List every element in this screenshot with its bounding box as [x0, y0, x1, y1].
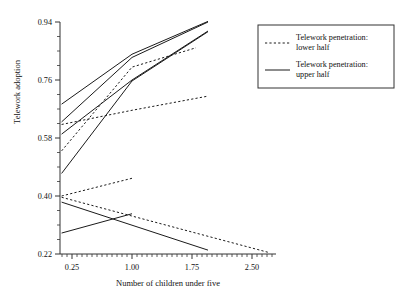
series-line-lower-dashed-3	[62, 178, 132, 196]
y-tick-label: 0.22	[38, 250, 52, 259]
y-tick-label: 0.40	[38, 192, 52, 201]
chart-canvas: 0.220.400.580.760.94 0.251.001.752.50 Te…	[0, 0, 397, 303]
x-tick-label: 2.50	[245, 263, 259, 272]
x-tick-label: 1.00	[125, 263, 139, 272]
legend-label-upper-1: Telework penetration:	[296, 60, 368, 69]
series-line-upper-solid-2	[62, 22, 208, 122]
series-line-lower-dashed-1	[62, 96, 208, 124]
chart-legend: Telework penetration: lower half Telewor…	[258, 25, 394, 88]
legend-label-lower-2: lower half	[296, 43, 330, 52]
chart-root: Telework adoption Number of children und…	[0, 0, 397, 303]
series-line-lower-dashed-2	[62, 48, 196, 151]
series-line-upper-solid-5	[62, 202, 208, 250]
x-tick-label: 0.25	[65, 263, 79, 272]
legend-label-upper-2: upper half	[296, 70, 330, 79]
series-line-upper-solid-1	[62, 21, 208, 104]
y-axis-ticks: 0.220.400.580.760.94	[38, 18, 60, 259]
chart-series-group	[62, 21, 270, 252]
x-axis-title: Number of children under five	[60, 278, 276, 288]
y-tick-label: 0.58	[38, 134, 52, 143]
x-axis-ticks: 0.251.001.752.50	[62, 254, 272, 272]
y-tick-label: 0.94	[38, 18, 52, 27]
x-tick-label: 1.75	[185, 263, 199, 272]
series-line-upper-solid-6	[62, 214, 132, 233]
y-axis-title: Telework adoption	[2, 0, 12, 92]
legend-label-lower-1: Telework penetration:	[296, 33, 368, 42]
y-tick-label: 0.76	[38, 76, 52, 85]
